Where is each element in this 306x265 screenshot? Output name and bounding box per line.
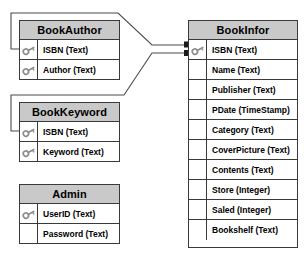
key-icon bbox=[22, 208, 36, 220]
key-icon bbox=[191, 44, 205, 56]
field-row[interactable]: Publisher (Text) bbox=[189, 80, 297, 100]
primary-key-icon-cell bbox=[20, 122, 38, 141]
field-label: Contents (Text) bbox=[207, 160, 297, 179]
key-icon bbox=[22, 64, 36, 76]
key-icon-cell-empty bbox=[189, 60, 207, 79]
key-icon-cell-empty bbox=[189, 80, 207, 99]
field-label: CoverPicture (Text) bbox=[207, 140, 297, 159]
field-row[interactable]: Keyword (Text) bbox=[20, 142, 119, 162]
entity-bookkeyword-title: BookKeyword bbox=[20, 103, 119, 122]
primary-key-icon-cell bbox=[20, 142, 38, 162]
field-row[interactable]: ISBN (Text) bbox=[20, 122, 119, 142]
field-label: ISBN (Text) bbox=[207, 40, 297, 59]
entity-bookauthor[interactable]: BookAuthor ISBN (Text) bbox=[19, 20, 120, 80]
field-row[interactable]: Bookshelf (Text) bbox=[189, 220, 297, 240]
key-icon-cell-empty bbox=[189, 120, 207, 139]
field-row[interactable]: Saled (Integer) bbox=[189, 200, 297, 220]
primary-key-icon-cell bbox=[20, 60, 38, 80]
field-label: UserID (Text) bbox=[38, 204, 119, 223]
field-row[interactable]: Contents (Text) bbox=[189, 160, 297, 180]
key-icon-cell-empty bbox=[189, 160, 207, 179]
field-label: Bookshelf (Text) bbox=[207, 220, 297, 240]
field-row[interactable]: UserID (Text) bbox=[20, 204, 119, 224]
key-icon-cell-empty bbox=[189, 180, 207, 199]
field-label: Store (Integer) bbox=[207, 180, 297, 199]
field-label: Name (Text) bbox=[207, 60, 297, 79]
field-row[interactable]: Category (Text) bbox=[189, 120, 297, 140]
field-label: Password (Text) bbox=[38, 224, 119, 244]
field-label: PDate (TimeStamp) bbox=[207, 100, 297, 119]
entity-bookinfor-title: BookInfor bbox=[189, 21, 297, 40]
er-diagram-canvas: BookAuthor ISBN (Text) bbox=[0, 0, 306, 265]
key-icon bbox=[22, 44, 36, 56]
key-icon-cell-empty bbox=[20, 224, 38, 244]
field-row[interactable]: PDate (TimeStamp) bbox=[189, 100, 297, 120]
key-icon-cell-empty bbox=[189, 200, 207, 219]
entity-bookinfor[interactable]: BookInfor ISBN (Text) Name (Text) Publis… bbox=[188, 20, 298, 248]
field-row[interactable]: Store (Integer) bbox=[189, 180, 297, 200]
field-row[interactable]: Password (Text) bbox=[20, 224, 119, 244]
key-icon bbox=[22, 126, 36, 138]
entity-bookauthor-title: BookAuthor bbox=[20, 21, 119, 40]
key-icon-cell-empty bbox=[189, 140, 207, 159]
field-label: Keyword (Text) bbox=[38, 142, 119, 162]
field-label: ISBN (Text) bbox=[38, 122, 119, 141]
field-row[interactable]: Author (Text) bbox=[20, 60, 119, 80]
key-icon bbox=[22, 146, 36, 158]
key-icon-cell-empty bbox=[189, 220, 207, 240]
key-icon-cell-empty bbox=[189, 100, 207, 119]
field-row[interactable]: ISBN (Text) bbox=[189, 40, 297, 60]
field-label: Author (Text) bbox=[38, 60, 119, 80]
field-label: Saled (Integer) bbox=[207, 200, 297, 219]
primary-key-icon-cell bbox=[20, 204, 38, 223]
field-label: ISBN (Text) bbox=[38, 40, 119, 59]
primary-key-icon-cell bbox=[189, 40, 207, 59]
field-label: Publisher (Text) bbox=[207, 80, 297, 99]
entity-bookkeyword[interactable]: BookKeyword ISBN (Text) bbox=[19, 102, 120, 162]
field-label: Category (Text) bbox=[207, 120, 297, 139]
field-row[interactable]: ISBN (Text) bbox=[20, 40, 119, 60]
entity-admin[interactable]: Admin UserID (Text) Password (Text) bbox=[19, 184, 120, 244]
primary-key-icon-cell bbox=[20, 40, 38, 59]
field-row[interactable]: CoverPicture (Text) bbox=[189, 140, 297, 160]
entity-admin-title: Admin bbox=[20, 185, 119, 204]
field-row[interactable]: Name (Text) bbox=[189, 60, 297, 80]
